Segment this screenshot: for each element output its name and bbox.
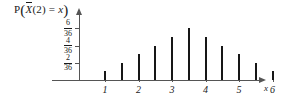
probability-spike-chart: P(X(2) = x) x 236436636 123456 [0,0,282,109]
bar [221,46,223,80]
bar [188,28,190,80]
title-xbar: X [26,3,33,15]
x-axis-line [52,80,260,81]
bar [238,54,240,80]
x-tick-label: 3 [170,84,175,95]
bar [121,63,123,80]
bar [171,37,173,80]
bar [154,46,156,80]
bar [272,71,274,80]
y-tick-mark [75,63,80,64]
y-tick-mark [75,46,80,47]
x-axis-label: x [264,83,268,93]
bar [138,54,140,80]
x-tick-label: 2 [136,84,141,95]
title-equals: = [49,3,55,15]
y-axis-line [79,14,80,80]
bar [255,63,257,80]
y-axis-arrow-icon [76,8,82,15]
x-tick-label: 5 [237,84,242,95]
y-tick-label: 636 [46,19,72,38]
y-tick-label: 436 [46,37,72,56]
bar [205,37,207,80]
y-tick-mark [75,28,80,29]
chart-title: P(X(2) = x) [14,2,69,19]
x-tick-label: 6 [270,84,275,95]
x-tick-label: 4 [203,84,208,95]
x-tick-label: 1 [103,84,108,95]
title-arg: (2) [32,3,45,15]
y-tick-label: 236 [46,54,72,73]
title-close-paren: ) [63,2,68,18]
bar [104,71,106,80]
